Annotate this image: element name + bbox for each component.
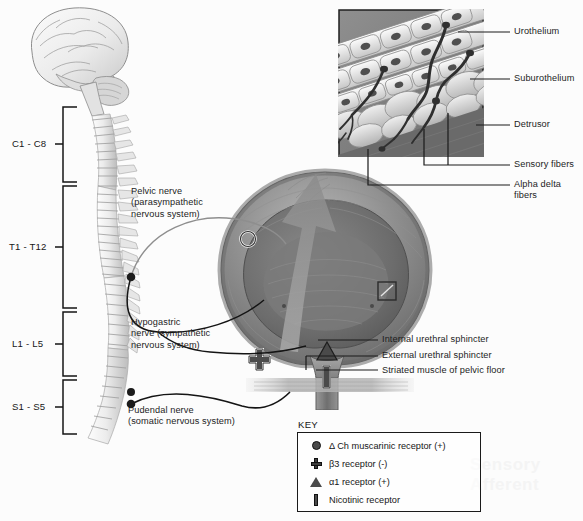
callout-suburothelium: Suburothelium [514, 73, 574, 84]
label-pelvic-nerve: Pelvic nerve (parasympathetic nervous sy… [131, 186, 241, 220]
muscarinic-circle-icon [308, 439, 324, 453]
bleed-through-text: Sensory Afferent [470, 455, 583, 495]
spine-origin-dot-thoracolumbar [127, 273, 136, 282]
alpha1-triangle-icon [308, 475, 324, 489]
key-item-label: Δ Ch muscarinic receptor (+) [329, 441, 446, 451]
callout-external-urethral-sphincter: External urethral sphincter [382, 350, 492, 361]
segment-label-thoracic: T1 - T12 [9, 241, 47, 252]
beta3-plus-icon [308, 457, 324, 471]
callout-detrusor: Detrusor [514, 119, 550, 130]
key-item-beta3: β3 receptor (-) [308, 455, 387, 472]
key-item-alpha1: α1 receptor (+) [308, 473, 390, 490]
key-item-label: β3 receptor (-) [329, 459, 387, 469]
segment-label-lumbar: L1 - L5 [12, 338, 43, 349]
label-hypogastric-nerve: Hypogastric nerve (sympathetic nervous s… [131, 317, 251, 351]
inset-callout-leaders [338, 9, 583, 199]
figure-canvas: Sensory Afferent [0, 0, 583, 521]
callout-alpha-delta-fibers: Alpha delta fibers [514, 179, 561, 202]
callout-internal-urethral-sphincter: Internal urethral sphincter [382, 334, 489, 345]
key-item-nicotinic: Nicotinic receptor [308, 491, 400, 508]
key-item-label: Nicotinic receptor [329, 495, 400, 505]
brain-shape [31, 8, 128, 116]
pelvic-nerve-line [131, 218, 286, 277]
key-box: Δ Ch muscarinic receptor (+) β3 receptor… [297, 432, 481, 512]
spinal-segment-brackets [55, 104, 93, 436]
label-pudendal-nerve: Pudendal nerve (somatic nervous system) [128, 405, 293, 428]
spine-origin-dot-sacral-upper [127, 388, 135, 396]
key-item-muscarinic: Δ Ch muscarinic receptor (+) [308, 437, 446, 454]
segment-label-cervical: C1 - C8 [12, 138, 46, 149]
key-item-label: α1 receptor (+) [329, 477, 390, 487]
callout-sensory-fibers: Sensory fibers [514, 159, 574, 170]
segment-label-sacral: S1 - S5 [12, 401, 45, 412]
key-title: KEY [298, 419, 318, 430]
callout-striated-muscle-pelvic-floor: Striated muscle of pelvic floor [382, 365, 505, 376]
nicotinic-bar-icon [308, 493, 324, 507]
callout-urothelium: Urothelium [514, 26, 559, 37]
